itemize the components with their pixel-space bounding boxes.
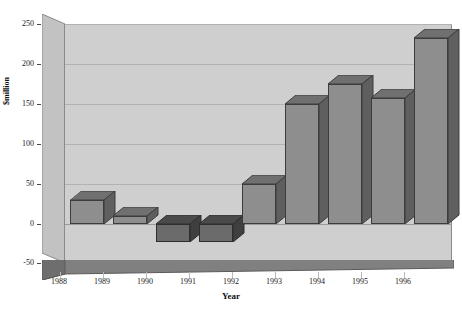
y-tick-label-200: 200 [4,60,34,68]
x-tick-label-1996: 1996 [383,277,423,286]
bar-1988 [70,200,104,224]
bar-1996 [414,38,448,224]
x-tick-label-1990: 1990 [125,277,165,286]
y-tick-mark-neg50 [37,263,41,264]
y-tick-label-0: 0 [4,220,34,228]
plot-left-wall [42,14,66,265]
plot-area [42,14,452,269]
gridline-250 [65,24,452,25]
bar-1992 [242,184,276,224]
bar-1989 [113,216,147,224]
x-tick-label-1993: 1993 [254,277,294,286]
y-tick-mark-0 [37,224,41,225]
x-tick-label-1995: 1995 [340,277,380,286]
bar-1990 [156,224,190,242]
y-tick-label-50: 50 [4,180,34,188]
bar-1995 [371,98,405,224]
y-tick-label-250: 250 [4,20,34,28]
y-tick-label-neg50: -50 [4,259,34,267]
y-tick-mark-50 [37,184,41,185]
x-tick-label-1989: 1989 [82,277,122,286]
y-tick-mark-100 [37,144,41,145]
y-tick-label-100: 100 [4,140,34,148]
y-tick-mark-250 [37,24,41,25]
x-tick-label-1988: 1988 [39,277,79,286]
y-tick-mark-150 [37,104,41,105]
bar-1993 [285,104,319,224]
x-tick-label-1991: 1991 [168,277,208,286]
gridline-zero [65,224,452,225]
bar-1994 [328,84,362,224]
y-tick-mark-200 [37,64,41,65]
x-tick-label-1992: 1992 [211,277,251,286]
x-tick-label-1994: 1994 [297,277,337,286]
y-tick-label-150: 150 [4,100,34,108]
gridline-200 [65,64,452,65]
x-axis-title: Year [0,291,462,301]
bar-1991 [199,224,233,242]
bar-chart: $million 250 200 150 100 50 0 -50 [0,0,462,313]
